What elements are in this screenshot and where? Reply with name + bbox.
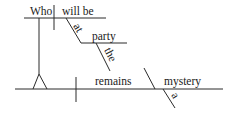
- word-mystery: mystery: [164, 75, 201, 88]
- word-who: Who: [30, 5, 53, 17]
- word-will-be: will be: [62, 5, 94, 17]
- word-remains: remains: [95, 75, 132, 87]
- word-party: party: [92, 30, 116, 43]
- complement-divider: [144, 68, 155, 89]
- sentence-diagram: Who will be at party the remains mystery…: [0, 0, 235, 113]
- word-a: a: [169, 90, 182, 100]
- pedestal-legs: [33, 74, 47, 89]
- word-at: at: [71, 21, 86, 35]
